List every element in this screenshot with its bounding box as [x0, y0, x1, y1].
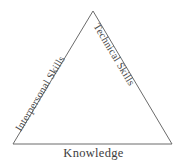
- skills-triangle-diagram: Interpersonal Skills Technical Skills Kn…: [0, 0, 187, 165]
- label-knowledge: Knowledge: [0, 146, 187, 160]
